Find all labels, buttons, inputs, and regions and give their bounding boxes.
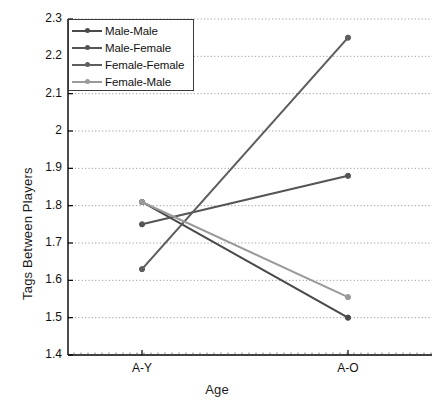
y-tick-label: 2.3	[45, 11, 62, 25]
legend-label: Female-Male	[105, 76, 171, 88]
y-axis-title: Tags Between Players	[20, 167, 35, 300]
y-tick-label: 2.2	[45, 48, 62, 62]
x-axis-title: Age	[0, 382, 434, 397]
y-tick-label: 1.6	[45, 272, 62, 286]
legend-item-male-male: Male-Male	[69, 22, 193, 39]
legend-line-swatch	[72, 25, 102, 36]
legend-label: Female-Female	[105, 59, 184, 71]
legend-item-female-male: Female-Male	[69, 73, 193, 90]
y-tick-label: 2	[55, 123, 62, 137]
chart-figure: 1.41.51.61.71.81.922.12.22.3 A-YA-O Tags…	[0, 0, 434, 418]
chart-legend: Male-Male Male-Female Female-Female Fema…	[68, 19, 194, 91]
legend-line-swatch	[72, 59, 102, 70]
legend-line-swatch	[72, 42, 102, 53]
legend-label: Male-Female	[105, 42, 171, 54]
y-tick-label: 1.5	[45, 310, 62, 324]
y-tick-label: 2.1	[45, 86, 62, 100]
y-tick-label: 1.8	[45, 198, 62, 212]
legend-item-female-female: Female-Female	[69, 56, 193, 73]
legend-item-male-female: Male-Female	[69, 39, 193, 56]
y-tick-label: 1.4	[45, 347, 62, 361]
x-tick-label: A-Y	[112, 361, 172, 375]
legend-label: Male-Male	[105, 25, 158, 37]
legend-line-swatch	[72, 76, 102, 87]
y-tick-label: 1.7	[45, 235, 62, 249]
y-tick-label: 1.9	[45, 160, 62, 174]
line-chart-plot	[0, 0, 434, 418]
x-tick-label: A-O	[318, 361, 378, 375]
